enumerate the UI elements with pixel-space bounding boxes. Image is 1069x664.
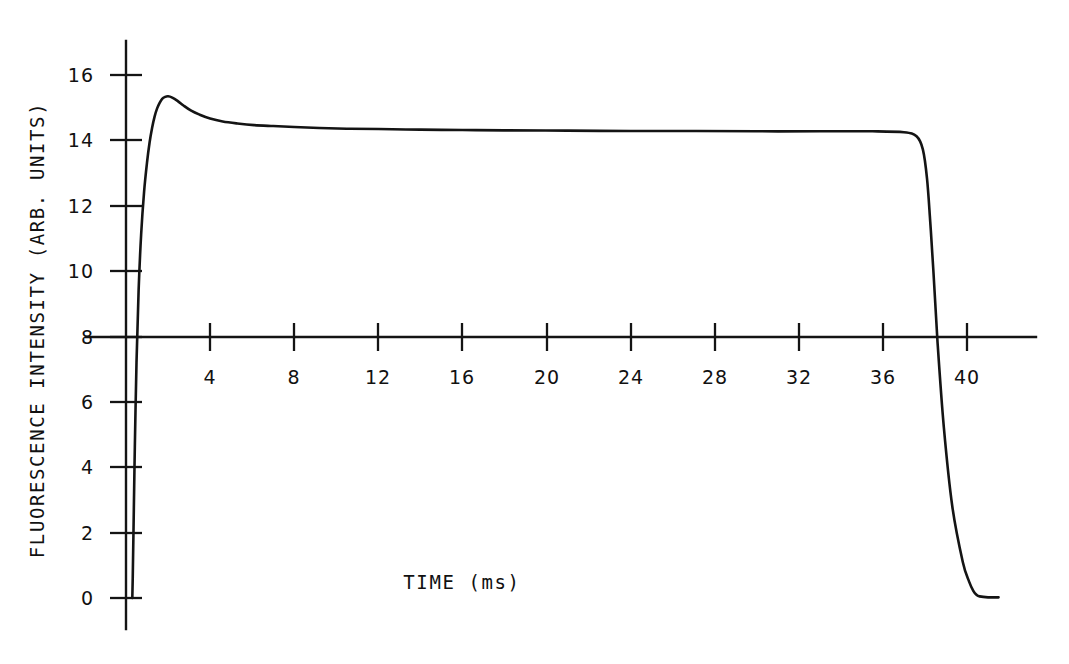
y-ticklabel-10: 10 bbox=[68, 260, 94, 282]
y-ticklabel-12: 12 bbox=[68, 195, 94, 217]
y-ticklabel-8: 8 bbox=[81, 326, 94, 348]
x-ticklabel-16: 16 bbox=[449, 366, 475, 388]
x-ticklabel-20: 20 bbox=[534, 366, 560, 388]
x-ticklabel-40: 40 bbox=[954, 366, 980, 388]
y-ticklabel-14: 14 bbox=[68, 129, 94, 151]
y-ticklabel-group: 0 2 4 6 8 10 12 14 16 bbox=[68, 64, 94, 609]
x-ticklabel-8: 8 bbox=[287, 366, 300, 388]
fluorescence-trace bbox=[132, 96, 998, 598]
y-ticklabel-6: 6 bbox=[81, 391, 94, 413]
x-axis-label: TIME (ms) bbox=[403, 571, 520, 593]
y-ticklabel-16: 16 bbox=[68, 64, 94, 86]
axes-group bbox=[86, 41, 1036, 629]
x-ticklabel-36: 36 bbox=[870, 366, 896, 388]
x-ticklabel-12: 12 bbox=[365, 366, 391, 388]
y-ticklabel-2: 2 bbox=[81, 522, 94, 544]
y-ticklabel-4: 4 bbox=[81, 456, 94, 478]
x-ticklabel-24: 24 bbox=[618, 366, 644, 388]
y-axis-label: FLUORESCENCE INTENSITY (ARB. UNITS) bbox=[26, 102, 48, 558]
chart-figure: 0 2 4 6 8 10 12 14 16 4 8 12 bbox=[0, 0, 1069, 664]
fluorescence-time-plot: 0 2 4 6 8 10 12 14 16 4 8 12 bbox=[0, 0, 1069, 664]
x-ticklabel-28: 28 bbox=[702, 366, 728, 388]
x-ticklabel-group: 4 8 12 16 20 24 28 32 36 40 bbox=[203, 366, 980, 388]
x-ticklabel-4: 4 bbox=[203, 366, 216, 388]
x-ticklabel-32: 32 bbox=[786, 366, 812, 388]
y-ticklabel-0: 0 bbox=[81, 587, 94, 609]
